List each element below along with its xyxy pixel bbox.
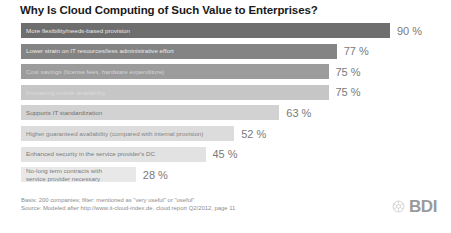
bar-value-label: 52 %: [241, 128, 266, 140]
bar-value-label: 77 %: [344, 45, 369, 57]
bdi-emblem-icon: [392, 200, 405, 213]
bar-row[interactable]: Enhanced security in the service provide…: [21, 147, 238, 162]
bar-value-label: 90 %: [397, 25, 422, 37]
bar-segment[interactable]: Higher guaranteed availability (compared…: [21, 126, 234, 141]
bar-category-label: Enhanced security in the service provide…: [21, 150, 155, 157]
bdi-logo-text: BDI: [409, 198, 437, 215]
bar-segment[interactable]: Supports IT standardization: [21, 105, 279, 120]
footnote-source: Source: Modeled after http://www.it-clou…: [21, 204, 235, 212]
bar-row[interactable]: Supports IT standardization63 %: [21, 105, 311, 120]
bar-segment[interactable]: No-long term contracts with service prov…: [21, 167, 136, 182]
page-title: Why Is Cloud Computing of Such Value to …: [20, 4, 318, 16]
bar-segment[interactable]: Lower strain on IT resources/less admini…: [21, 44, 337, 59]
bar-row[interactable]: No-long term contracts with service prov…: [21, 167, 168, 182]
chart-footnotes: Basis: 200 companies; filter: mentioned …: [21, 196, 235, 213]
bar-value-label: 75 %: [336, 86, 361, 98]
bar-row[interactable]: Lower strain on IT resources/less admini…: [21, 44, 369, 59]
bar-chart-plot-area: More flexibility/needs-based provision90…: [21, 23, 431, 191]
bar-segment[interactable]: Enhanced security in the service provide…: [21, 147, 206, 162]
bar-row[interactable]: Higher guaranteed availability (compared…: [21, 126, 266, 141]
bdi-logo: BDI: [392, 198, 437, 215]
bar-value-label: 75 %: [336, 66, 361, 78]
bar-category-label: Higher guaranteed availability (compared…: [21, 130, 203, 137]
bar-category-label: No-long term contracts with service prov…: [21, 167, 112, 182]
chart-container: Why Is Cloud Computing of Such Value to …: [0, 0, 451, 233]
bar-row[interactable]: Increasing mobile availability75 %: [21, 85, 361, 100]
bar-segment[interactable]: Increasing mobile availability: [21, 85, 329, 100]
bar-segment[interactable]: More flexibility/needs-based provision: [21, 23, 390, 38]
bar-category-label: Supports IT standardization: [21, 109, 102, 116]
bar-value-label: 28 %: [143, 169, 168, 181]
bar-category-label: Cost savings (license fees, hardware exp…: [21, 68, 164, 75]
bar-value-label: 63 %: [286, 107, 311, 119]
bar-row[interactable]: Cost savings (license fees, hardware exp…: [21, 64, 361, 79]
bar-category-label: More flexibility/needs-based provision: [21, 27, 130, 34]
bar-category-label: Lower strain on IT resources/less admini…: [21, 47, 174, 54]
bar-value-label: 45 %: [213, 148, 238, 160]
bar-row[interactable]: More flexibility/needs-based provision90…: [21, 23, 422, 38]
footnote-basis: Basis: 200 companies; filter: mentioned …: [21, 196, 235, 204]
bar-segment[interactable]: Cost savings (license fees, hardware exp…: [21, 64, 329, 79]
bar-category-label: Increasing mobile availability: [21, 89, 105, 96]
